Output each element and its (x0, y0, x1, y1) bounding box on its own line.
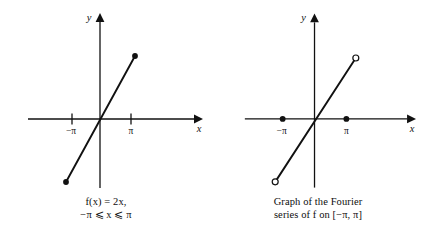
figure-container: y x −π π f(x) = 2x, −π ⩽ x ⩽ π (0, 0, 425, 244)
x-axis-label: x (196, 123, 202, 134)
convergence-dot-pos-pi (343, 116, 349, 122)
y-axis-label: y (86, 12, 92, 23)
plot-left: y x −π π (0, 0, 212, 200)
caption-left-line2: −π ⩽ x ⩽ π (0, 209, 212, 222)
caption-left-line1: f(x) = 2x, (0, 196, 212, 209)
caption-right-line1: Graph of the Fourier (212, 196, 424, 209)
caption-left: f(x) = 2x, −π ⩽ x ⩽ π (0, 196, 212, 221)
panel-left: y x −π π f(x) = 2x, −π ⩽ x ⩽ π (0, 0, 212, 244)
endpoint-lower-open (272, 179, 278, 185)
fourier-series-line (277, 60, 355, 179)
x-axis-label: x (409, 123, 415, 134)
plot-right: y x −π π (212, 0, 424, 200)
endpoint-upper-closed (132, 53, 138, 59)
convergence-dot-neg-pi (280, 116, 286, 122)
y-axis-arrowhead (310, 13, 319, 22)
x-tick-label-neg-pi: −π (277, 126, 287, 136)
endpoint-lower-closed (63, 179, 69, 185)
y-axis-label: y (300, 12, 306, 23)
caption-right: Graph of the Fourier series of f on [−π,… (212, 196, 424, 221)
x-tick-label-neg-pi: −π (66, 126, 76, 136)
y-axis-arrowhead (96, 13, 105, 22)
x-tick-label-pos-pi: π (129, 126, 134, 136)
plot-left-svg: y x −π π (0, 0, 212, 200)
endpoint-upper-open (353, 55, 359, 61)
plot-right-svg: y x −π π (212, 0, 424, 200)
panel-right: y x −π π Graph of the Fourier series of … (212, 0, 424, 244)
x-tick-label-pos-pi: π (344, 126, 349, 136)
caption-right-line2: series of f on [−π, π] (212, 209, 424, 222)
